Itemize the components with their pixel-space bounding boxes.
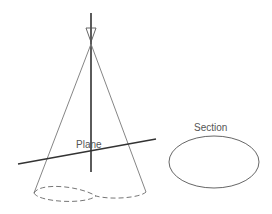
diagram-graphics <box>0 0 272 214</box>
cone-right-generator <box>91 44 146 192</box>
cone-base-dashed-front <box>34 193 96 201</box>
section-label: Section <box>194 122 227 133</box>
cone-left-generator <box>34 44 91 193</box>
cone-base-dashed <box>34 186 146 198</box>
section-ellipse <box>169 136 259 188</box>
cone-section-diagram: Plane Section <box>0 0 272 214</box>
plane-label: Plane <box>76 139 102 150</box>
